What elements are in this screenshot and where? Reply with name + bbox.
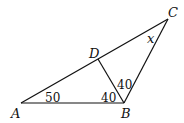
- point-a-label: A: [10, 106, 20, 121]
- angle-dbc-value: 40: [117, 78, 132, 92]
- point-c-label: C: [168, 5, 178, 20]
- angle-c-value: x: [147, 31, 155, 46]
- angle-abd-value: 40: [101, 91, 116, 105]
- geometry-diagram: A B C D 50 40 40 x: [0, 0, 184, 123]
- angle-a-value: 50: [45, 91, 60, 105]
- point-d-label: D: [88, 46, 100, 61]
- point-b-label: B: [120, 106, 131, 121]
